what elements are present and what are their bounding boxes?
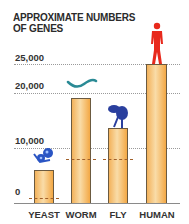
bar-worm (71, 98, 91, 204)
xlabel-worm: WORM (63, 209, 99, 220)
yeast-cell-icon (32, 146, 56, 166)
ytick-0: 0 (15, 186, 20, 197)
human-figure-icon (149, 22, 165, 65)
bar-human (146, 64, 167, 204)
bar-yeast (34, 170, 54, 204)
title-line-1: APPROXIMATE NUMBERS (13, 12, 135, 23)
fly-icon (106, 103, 132, 129)
ytick-25000: 25,000 (15, 52, 44, 63)
ytick-20000: 20,000 (15, 80, 44, 91)
title-line-2: OF GENES (13, 23, 135, 34)
bar-fly (108, 128, 128, 204)
xlabel-yeast: YEAST (27, 209, 61, 220)
ytick-10000: 10,000 (15, 135, 44, 146)
x-axis-baseline (14, 203, 180, 204)
chart-title: APPROXIMATE NUMBERS OF GENES (13, 12, 135, 34)
xlabel-fly: FLY (104, 209, 132, 220)
xlabel-human: HUMAN (136, 209, 178, 220)
worm-icon (66, 78, 98, 90)
